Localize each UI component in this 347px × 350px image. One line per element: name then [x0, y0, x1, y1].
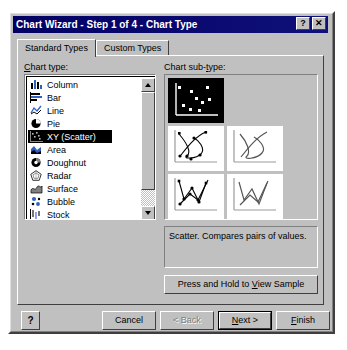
- chart-subtype-grid: [168, 78, 283, 219]
- chart-subtype-label: Chart sub-type:: [164, 62, 226, 72]
- chart-type-list-scrollbar[interactable]: [141, 78, 155, 220]
- surface-chart-icon: [30, 183, 43, 194]
- scroll-down-button[interactable]: [141, 206, 155, 220]
- chart-type-label-rest: hart type:: [31, 62, 69, 72]
- stock-chart-icon: [30, 209, 43, 220]
- list-item-label: XY (Scatter): [47, 132, 96, 142]
- close-icon[interactable]: ✕: [312, 17, 326, 30]
- list-item-doughnut[interactable]: Doughnut: [28, 156, 140, 169]
- chart-subtype-panel: [164, 74, 318, 220]
- subtype-scatter-smooth-lines-with-markers[interactable]: [168, 126, 224, 171]
- context-help-icon[interactable]: ?: [296, 17, 310, 30]
- list-item-pie[interactable]: Pie: [28, 117, 140, 130]
- view-sample-suffix: iew Sample: [258, 279, 305, 289]
- list-item-stock[interactable]: Stock: [28, 208, 140, 220]
- list-item-label: Bubble: [47, 197, 75, 207]
- list-item-label: Surface: [47, 184, 78, 194]
- chart-subtype-label-pre: Chart sub-: [164, 62, 206, 72]
- bar-chart-icon: [30, 92, 43, 103]
- list-item-label: Stock: [47, 210, 70, 220]
- cancel-button-label: Cancel: [115, 315, 143, 325]
- list-item-label: Radar: [47, 171, 72, 181]
- column-chart-icon: [30, 79, 43, 90]
- chart-wizard-dialog: Chart Wizard - Step 1 of 4 - Chart Type …: [8, 11, 335, 334]
- question-mark-icon: ?: [27, 315, 33, 326]
- view-sample-prefix: Press and Hold to: [178, 279, 252, 289]
- list-item-area[interactable]: Area: [28, 143, 140, 156]
- subtype-scatter-markers-only[interactable]: [168, 78, 224, 123]
- list-item-radar[interactable]: Radar: [28, 169, 140, 182]
- doughnut-chart-icon: [30, 157, 43, 168]
- bubble-chart-icon: [30, 196, 43, 207]
- cancel-button[interactable]: Cancel: [102, 311, 156, 330]
- list-item-label: Line: [47, 106, 64, 116]
- subtype-scatter-straight-lines-no-markers[interactable]: [227, 174, 283, 219]
- area-chart-icon: [30, 144, 43, 155]
- subtype-scatter-straight-lines-with-markers[interactable]: [168, 174, 224, 219]
- chart-type-label: Chart type:: [24, 62, 68, 72]
- list-item-surface[interactable]: Surface: [28, 182, 140, 195]
- next-button[interactable]: Next >: [218, 311, 272, 330]
- chart-subtype-description: Scatter. Compares pairs of values.: [164, 226, 318, 268]
- help-button[interactable]: ?: [21, 311, 40, 330]
- scatter-chart-icon: [30, 131, 43, 142]
- title-bar-buttons: ? ✕: [296, 17, 326, 30]
- subtype-grid-spacer: [227, 78, 283, 123]
- scrollbar-track[interactable]: [141, 92, 155, 206]
- list-item-label: Bar: [47, 93, 61, 103]
- scroll-up-button[interactable]: [141, 78, 155, 92]
- caret-up-icon: [145, 83, 151, 87]
- list-item-bar[interactable]: Bar: [28, 91, 140, 104]
- caret-down-icon: [145, 211, 151, 215]
- list-item-label: Area: [47, 145, 66, 155]
- title-bar[interactable]: Chart Wizard - Step 1 of 4 - Chart Type …: [13, 16, 328, 33]
- next-button-inner: Next >: [219, 312, 271, 329]
- next-button-label: ext >: [238, 315, 258, 325]
- finish-button[interactable]: Finish: [276, 311, 330, 330]
- chart-type-list-inner: Column Bar Line: [26, 76, 156, 220]
- tab-standard-types[interactable]: Standard Types: [17, 39, 96, 57]
- subtype-scatter-smooth-lines-no-markers[interactable]: [227, 126, 283, 171]
- standard-types-panel: Chart type: Column Bar: [17, 55, 324, 305]
- line-chart-icon: [30, 105, 43, 116]
- list-item-xy-scatter[interactable]: XY (Scatter): [28, 130, 112, 143]
- list-item-bubble[interactable]: Bubble: [28, 195, 140, 208]
- view-sample-button[interactable]: Press and Hold to View Sample: [164, 275, 318, 294]
- list-item-label: Pie: [47, 119, 60, 129]
- list-item-label: Column: [47, 80, 78, 90]
- list-item-line[interactable]: Line: [28, 104, 140, 117]
- chart-type-items: Column Bar Line: [28, 78, 140, 220]
- finish-button-label: inish: [296, 315, 315, 325]
- scrollbar-thumb[interactable]: [141, 92, 155, 190]
- back-button-label: < Back: [173, 315, 201, 325]
- radar-chart-icon: [30, 170, 43, 181]
- tab-custom-types[interactable]: Custom Types: [96, 40, 169, 56]
- tab-strip: Standard Types Custom Types: [17, 40, 322, 56]
- pie-chart-icon: [30, 118, 43, 129]
- chart-subtype-label-post: ype:: [209, 62, 226, 72]
- description-text: Scatter. Compares pairs of values.: [169, 231, 307, 241]
- list-item-label: Doughnut: [47, 158, 86, 168]
- back-button: < Back: [160, 311, 214, 330]
- chart-type-listbox[interactable]: Column Bar Line: [24, 74, 156, 220]
- list-item-column[interactable]: Column: [28, 78, 140, 91]
- window-title: Chart Wizard - Step 1 of 4 - Chart Type: [13, 19, 197, 30]
